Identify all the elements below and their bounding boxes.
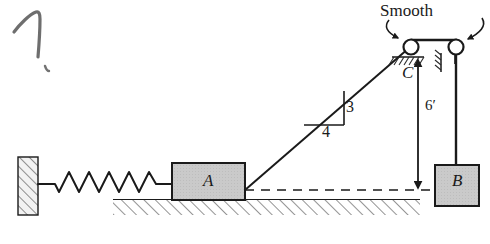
block-a-label: A [203, 172, 213, 189]
slope-triangle [304, 91, 344, 125]
spring [38, 172, 172, 192]
pencil-scribble-mark [14, 12, 49, 71]
smooth-label: Smooth [380, 2, 433, 19]
pulley-c [404, 40, 419, 55]
ground-surface [113, 200, 420, 215]
block-b-label: B [452, 172, 462, 189]
height-dimension-label: 6′ [425, 98, 436, 113]
smooth-callout-arrows [386, 18, 483, 39]
fixed-wall [18, 157, 38, 215]
physics-diagram: Smooth A B C 6′ 3 4 [0, 0, 490, 244]
support-hatching-right [435, 50, 441, 72]
point-c-label: C [402, 64, 413, 81]
diagram-canvas [0, 0, 490, 244]
slope-rise-label: 3 [346, 99, 354, 115]
pulley-right [449, 40, 464, 55]
slope-run-label: 4 [322, 124, 330, 140]
cable-a-to-c [245, 48, 409, 190]
